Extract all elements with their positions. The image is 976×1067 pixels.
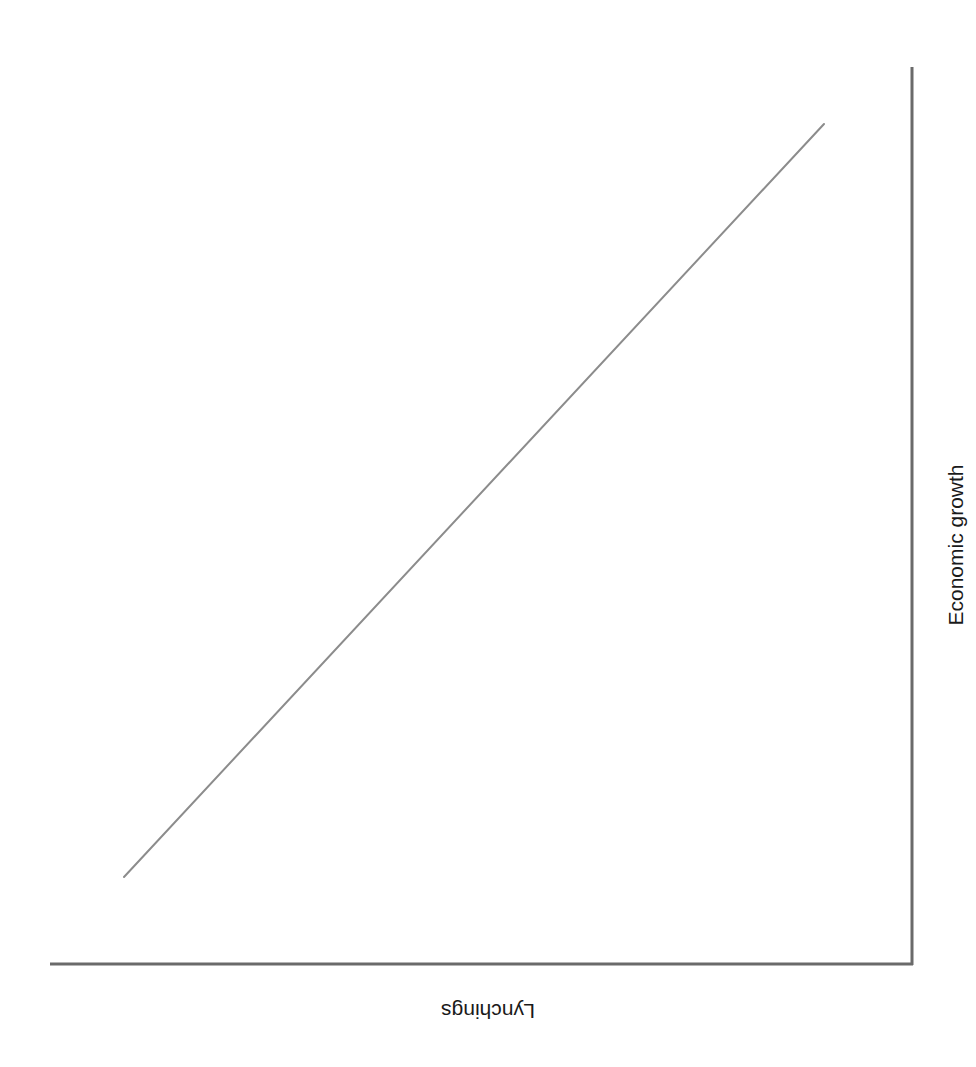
plot-area (0, 0, 976, 1067)
chart-figure: Lynchings Economic growth (0, 0, 976, 1067)
trend-line (124, 124, 824, 877)
x-axis-title: Lynchings (441, 1001, 535, 1022)
y-axis-title: Economic growth (945, 464, 966, 625)
